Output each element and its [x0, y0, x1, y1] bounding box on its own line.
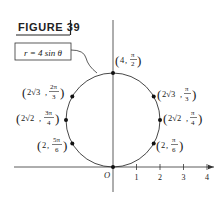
svg-text:,: , — [186, 113, 188, 123]
label-2r2-3pi-4: ( 2√2 , 3π 4 ) — [16, 109, 59, 127]
svg-text:,: , — [180, 89, 182, 99]
svg-text:2√3: 2√3 — [162, 89, 175, 99]
x-tick-label-4: 4 — [205, 173, 209, 182]
svg-text:6: 6 — [172, 146, 176, 154]
svg-text:): ) — [55, 111, 59, 126]
svg-text:(: ( — [16, 111, 20, 126]
svg-text:3: 3 — [52, 93, 56, 101]
equation-label: r = 4 sin θ — [24, 48, 63, 58]
svg-text:2: 2 — [161, 140, 165, 150]
svg-text:(: ( — [37, 138, 41, 153]
svg-text:π: π — [131, 51, 135, 59]
x-tick-label-1: 1 — [135, 173, 139, 182]
svg-text:): ) — [137, 53, 141, 68]
svg-text:2√2: 2√2 — [21, 113, 34, 123]
svg-text:3π: 3π — [45, 109, 53, 117]
svg-text:): ) — [198, 111, 202, 126]
svg-text:2: 2 — [131, 60, 135, 68]
svg-text:): ) — [60, 85, 64, 100]
svg-text:2√2: 2√2 — [168, 113, 181, 123]
svg-text:6: 6 — [55, 146, 59, 154]
x-tick-label-3: 3 — [182, 173, 186, 182]
point-4-pi-2 — [111, 71, 115, 75]
point-2r2-pi-4 — [158, 118, 162, 122]
svg-text:π: π — [191, 109, 195, 117]
svg-text:π: π — [172, 136, 176, 144]
svg-text:2√3: 2√3 — [27, 87, 40, 97]
svg-text:,: , — [125, 55, 127, 65]
svg-text:(: ( — [115, 53, 119, 68]
point-origin — [111, 165, 115, 169]
svg-text:(: ( — [163, 111, 167, 126]
svg-text:,: , — [39, 113, 41, 123]
point-2r2-3pi-4 — [64, 118, 68, 122]
svg-text:(: ( — [157, 87, 161, 102]
svg-text:2π: 2π — [50, 83, 58, 91]
svg-text:,: , — [45, 87, 47, 97]
label-2r3-2pi-3: ( 2√3 , 2π 3 ) — [22, 83, 64, 101]
x-tick-label-2: 2 — [158, 173, 162, 182]
svg-text:): ) — [63, 138, 67, 153]
svg-text:4: 4 — [191, 119, 195, 127]
svg-text:): ) — [179, 138, 183, 153]
equation-connector — [71, 50, 97, 73]
svg-text:(: ( — [156, 138, 160, 153]
svg-text:4: 4 — [47, 119, 51, 127]
svg-text:,: , — [166, 140, 168, 150]
x-axis-arrow-icon — [208, 165, 214, 169]
point-2r3-2pi-3 — [70, 95, 74, 99]
point-2-5pi-6 — [70, 142, 74, 146]
origin-label: O — [104, 170, 110, 180]
label-4-pi-2: ( 4 , π 2 ) — [115, 51, 141, 68]
label-2r3-pi-3: ( 2√3 , π 3 ) — [157, 85, 196, 103]
label-2-pi-6: ( 2 , π 6 ) — [156, 136, 183, 154]
label-2r2-pi-4: ( 2√2 , π 4 ) — [163, 109, 202, 127]
svg-text:5π: 5π — [53, 136, 61, 144]
svg-text:π: π — [185, 85, 189, 93]
point-2r3-pi-3 — [152, 95, 156, 99]
label-2-5pi-6: ( 2 , 5π 6 ) — [37, 136, 67, 154]
svg-text:3: 3 — [185, 95, 189, 103]
svg-text:,: , — [47, 140, 49, 150]
svg-text:2: 2 — [42, 140, 46, 150]
svg-text:(: ( — [22, 85, 26, 100]
svg-text:): ) — [192, 87, 196, 102]
polar-diagram: r = 4 sin θ 1 2 3 4 O ( 4 , π — [0, 0, 220, 201]
